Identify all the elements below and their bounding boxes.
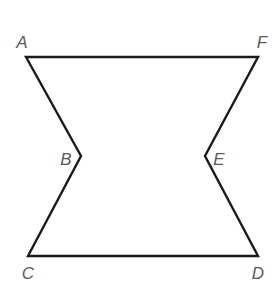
vertex-label-a: A: [16, 34, 27, 51]
vertex-label-e: E: [213, 151, 224, 168]
vertex-label-b: B: [60, 151, 71, 168]
vertex-label-f: F: [257, 34, 267, 51]
vertex-label-c: C: [22, 265, 34, 282]
hexagon-figure: [0, 0, 280, 289]
vertex-label-d: D: [252, 265, 264, 282]
